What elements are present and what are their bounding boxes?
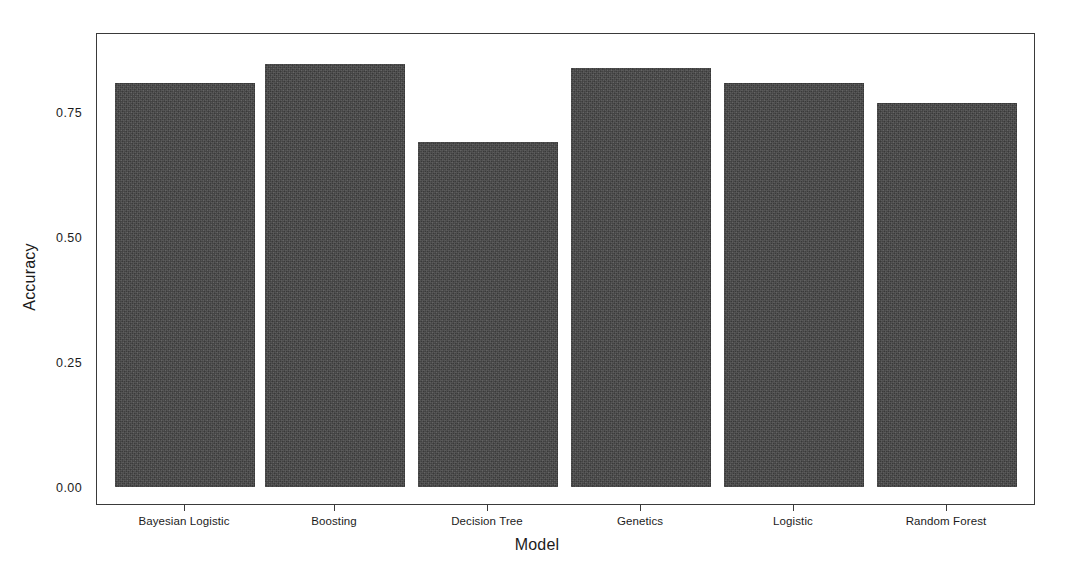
- x-axis-title: Model: [0, 536, 1074, 554]
- x-tick-label-decision-tree: Decision Tree: [451, 515, 523, 527]
- x-tick-mark-1: [334, 505, 335, 511]
- x-tick-label-genetics: Genetics: [617, 515, 663, 527]
- bar-random-forest: [877, 103, 1017, 487]
- x-tick-label-boosting: Boosting: [311, 515, 357, 527]
- bar-boosting: [265, 64, 405, 487]
- y-tick-label-3: 0.75: [56, 106, 82, 120]
- bar-genetics: [571, 68, 711, 487]
- x-tick-mark-5: [946, 505, 947, 511]
- bar-chart-figure: 0.00 0.25 0.50 0.75 Accuracy Bayesian Lo…: [0, 0, 1074, 573]
- x-tick-label-logistic: Logistic: [773, 515, 813, 527]
- bar-decision-tree: [418, 142, 558, 487]
- plot-area: [97, 34, 1034, 487]
- y-tick-label-2: 0.50: [56, 231, 82, 245]
- bar-bayesian-logistic: [115, 83, 255, 487]
- x-tick-mark-0: [184, 505, 185, 511]
- x-tick-label-bayesian-logistic: Bayesian Logistic: [138, 515, 229, 527]
- y-axis-title: Accuracy: [21, 207, 39, 347]
- x-tick-mark-4: [793, 505, 794, 511]
- plot-panel: [96, 33, 1035, 505]
- x-tick-label-random-forest: Random Forest: [906, 515, 987, 527]
- bar-logistic: [724, 83, 864, 487]
- x-tick-mark-2: [487, 505, 488, 511]
- y-tick-label-1: 0.25: [56, 356, 82, 370]
- x-tick-mark-3: [640, 505, 641, 511]
- y-tick-label-0: 0.00: [56, 481, 82, 495]
